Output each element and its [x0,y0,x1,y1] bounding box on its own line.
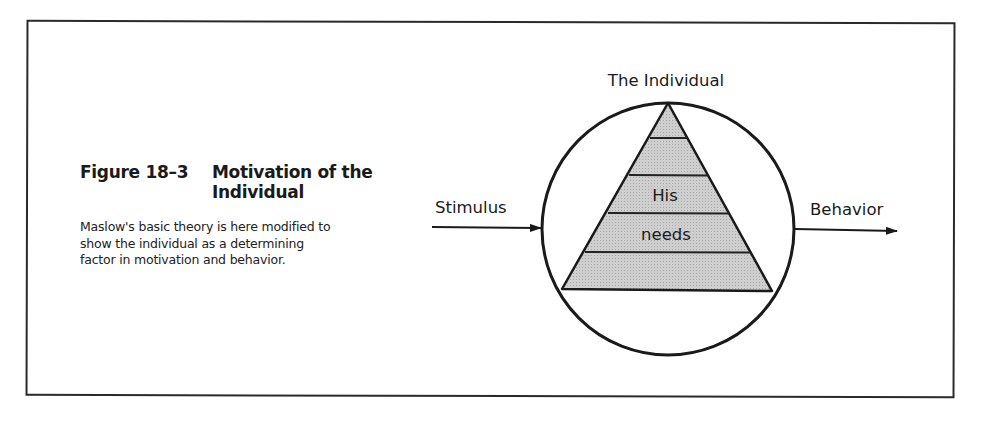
behavior-label: Behavior [810,200,883,219]
pyramid-text-his: His [652,186,678,205]
behavior-arrow [795,229,897,231]
individual-label: The Individual [607,71,724,90]
stimulus-arrow [432,227,541,228]
pyramid-text-needs: needs [641,225,691,244]
motivation-diagram: The Individual His needs Stimulus Behavi… [0,0,981,421]
pyramid-level-line [608,213,729,214]
pyramid-level-line [585,252,750,253]
pyramid-level-line [629,175,707,176]
stimulus-label: Stimulus [435,198,507,217]
